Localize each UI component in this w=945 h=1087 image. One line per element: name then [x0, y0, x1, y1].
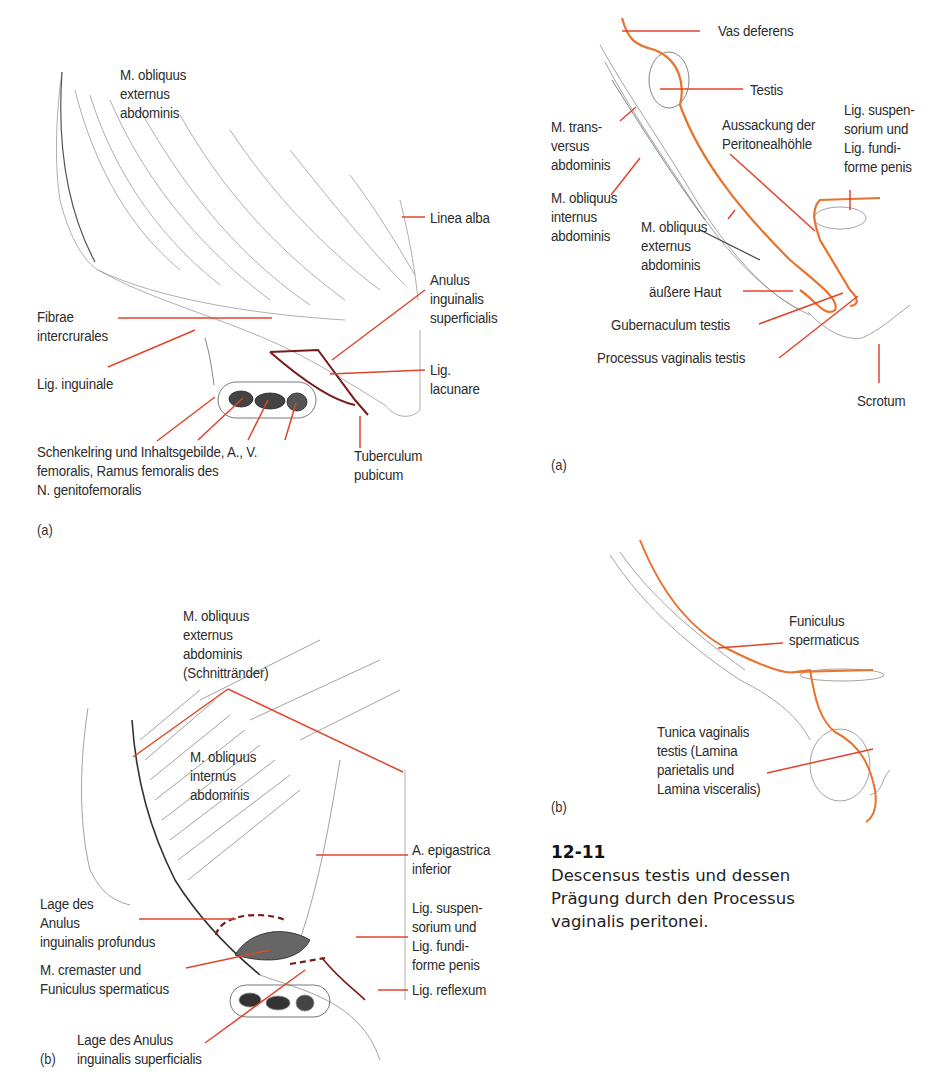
label-lig-lacunare: Lig. lacunare	[430, 360, 480, 398]
label-epigastrica-inferior: A. epigastrica inferior	[412, 840, 490, 878]
label-processus-vaginalis-testis: Processus vaginalis testis	[597, 348, 745, 367]
label-obliquus-externus-schnittraender: M. obliquus externus abdominis (Schnittr…	[183, 606, 269, 682]
label-aeussere-haut: äußere Haut	[649, 282, 721, 301]
label-lig-suspensorium-a: Lig. suspen- sorium und Lig. fundi- form…	[844, 100, 915, 176]
label-obliquus-externus-right: M. obliquus externus abdominis	[641, 217, 707, 274]
label-scrotum: Scrotum	[857, 391, 905, 410]
label-cremaster-funiculus: M. cremaster und Funiculus spermaticus	[40, 960, 169, 998]
label-aussackung-peritonealhoehle: Aussackung der Peritonealhöhle	[722, 115, 815, 153]
label-fibrae-intercrurales: Fibrae intercrurales	[37, 307, 108, 345]
label-transversus-abdominis: M. trans- versus abdominis	[551, 117, 610, 174]
label-lig-reflexum: Lig. reflexum	[412, 980, 486, 999]
panel-tag-right-a: (a)	[551, 456, 567, 473]
panel-tag-left-a: (a)	[37, 521, 53, 538]
label-testis: Testis	[750, 80, 783, 99]
label-linea-alba: Linea alba	[430, 208, 490, 227]
figure-number: 12-11	[551, 842, 605, 862]
label-obliquus-externus-a: M. obliquus externus abdominis	[120, 65, 186, 122]
figure-caption: Descensus testis und dessen Prägung durc…	[551, 864, 931, 933]
label-lig-inguinale: Lig. inguinale	[37, 374, 113, 393]
label-anulus-inguinalis-superficialis: Anulus inguinalis superficialis	[430, 270, 497, 327]
label-schenkelring: Schenkelring und Inhaltsgebilde, A., V. …	[37, 442, 257, 499]
label-obliquus-internus-a: M. obliquus internus abdominis	[551, 188, 617, 245]
label-funiculus-spermaticus: Funiculus spermaticus	[789, 611, 859, 649]
label-anulus-profundus: Lage des Anulus inguinalis profundus	[40, 894, 155, 951]
caption-line: Descensus testis und dessen	[551, 864, 931, 887]
caption-line: vaginalis peritonei.	[551, 910, 931, 933]
left-a-superficial-ring-outline	[270, 350, 368, 415]
label-tunica-vaginalis-testis: Tunica vaginalis testis (Lamina parietal…	[657, 722, 761, 798]
label-obliquus-internus-b: M. obliquus internus abdominis	[190, 747, 256, 804]
label-tuberculum-pubicum: Tuberculum pubicum	[354, 446, 422, 484]
label-vas-deferens: Vas deferens	[718, 21, 794, 40]
caption-line: Prägung durch den Processus	[551, 887, 931, 910]
label-lig-suspensorium-b: Lig. suspen- sorium und Lig. fundi- form…	[412, 898, 483, 974]
label-gubernaculum-testis: Gubernaculum testis	[611, 315, 730, 334]
panel-tag-right-b: (b)	[551, 798, 567, 815]
label-anulus-superficialis-b: Lage des Anulus inguinalis superficialis	[77, 1030, 202, 1068]
panel-tag-left-b: (b)	[40, 1050, 56, 1067]
